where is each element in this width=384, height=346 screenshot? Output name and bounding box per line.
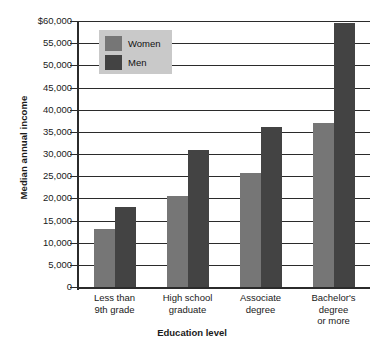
bar-women-3	[313, 123, 334, 287]
y-axis-tick-label: 50,000	[8, 60, 72, 70]
y-axis-tick-label: 10,000	[8, 238, 72, 248]
x-axis-tick-label-line: 9th grade	[73, 304, 157, 316]
bar-men-3	[334, 23, 355, 287]
y-axis-tick-label: 5,000	[8, 260, 72, 270]
bar-chart: Median annual income $60,00055,00050,000…	[0, 0, 384, 346]
legend-swatch-men-icon	[105, 55, 122, 70]
y-axis-tick-label: 0	[8, 282, 72, 292]
legend-label-women: Women	[128, 38, 161, 49]
x-axis-tick-label: Associatedegree	[219, 292, 303, 315]
legend-entry-women: Women	[105, 34, 161, 52]
bar-men-2	[261, 127, 282, 287]
gridline	[78, 110, 370, 111]
y-axis-tick-label: 35,000	[8, 127, 72, 137]
y-axis-tick-mark	[70, 43, 77, 44]
y-axis-tick-mark	[70, 265, 77, 266]
y-axis-tick-mark	[70, 221, 77, 222]
y-axis-tick-mark	[70, 243, 77, 244]
x-axis-tick-label: Less than9th grade	[73, 292, 157, 315]
x-axis-tick-label-line: Associate	[219, 292, 303, 304]
bar-men-1	[188, 150, 209, 287]
legend-swatch-women-icon	[105, 36, 122, 51]
legend-label-men: Men	[128, 57, 146, 68]
bar-men-0	[115, 207, 136, 287]
x-axis-tick-label-line: graduate	[146, 304, 230, 316]
x-axis-tick-label-line: Less than	[73, 292, 157, 304]
y-axis-tick-label: 55,000	[8, 38, 72, 48]
bar-women-2	[240, 173, 261, 287]
x-axis-tick-label-line: degree	[219, 304, 303, 316]
y-axis-tick-label: $60,000	[8, 16, 72, 26]
x-axis-tick-label-line: degree	[292, 304, 376, 316]
x-axis-tick-label-line: Bachelor's	[292, 292, 376, 304]
gridline	[78, 21, 370, 22]
x-axis-tick-label-line: High school	[146, 292, 230, 304]
y-axis-tick-mark	[70, 65, 77, 66]
y-axis-tick-label: 45,000	[8, 83, 72, 93]
y-axis-tick-label: 25,000	[8, 171, 72, 181]
x-axis-title: Education level	[0, 327, 384, 338]
y-axis-tick-label: 40,000	[8, 105, 72, 115]
x-axis-tick-label: Bachelor'sdegreeor more	[292, 292, 376, 327]
x-axis-tick-label-line: or more	[292, 315, 376, 327]
bar-women-0	[94, 229, 115, 287]
bar-women-1	[167, 196, 188, 287]
legend-entry-men: Men	[105, 53, 146, 71]
y-axis-tick-mark	[70, 110, 77, 111]
y-axis-tick-mark	[70, 176, 77, 177]
gridline	[78, 88, 370, 89]
y-axis-tick-label: 30,000	[8, 149, 72, 159]
y-axis-tick-mark	[70, 287, 77, 288]
y-axis-tick-label: 20,000	[8, 193, 72, 203]
chart-legend: Women Men	[99, 30, 172, 74]
y-axis-tick-mark	[70, 88, 77, 89]
y-axis-tick-label: 15,000	[8, 216, 72, 226]
x-axis-tick-label: High schoolgraduate	[146, 292, 230, 315]
y-axis-tick-mark	[70, 198, 77, 199]
y-axis-tick-mark	[70, 154, 77, 155]
x-axis-baseline	[78, 287, 370, 289]
y-axis-tick-mark	[70, 132, 77, 133]
y-axis-tick-mark	[70, 21, 77, 22]
